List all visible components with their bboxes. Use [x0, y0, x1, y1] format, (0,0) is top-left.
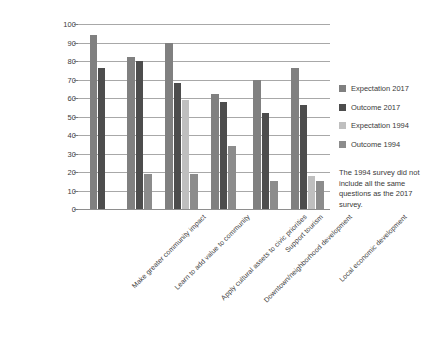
y-tick-mark-30 — [74, 154, 78, 155]
legend-item[interactable]: Outcome 1994 — [339, 140, 435, 149]
x-axis-labels: Make greater community impactLearn to ad… — [78, 209, 338, 329]
legend-swatch-icon — [339, 104, 346, 111]
legend-swatch-icon — [339, 122, 346, 129]
bar — [262, 113, 270, 209]
y-tick-mark-80 — [74, 61, 78, 62]
bar — [220, 102, 228, 209]
bar — [174, 83, 182, 209]
legend-item[interactable]: Outcome 2017 — [339, 103, 435, 112]
bar — [165, 43, 173, 210]
bar — [211, 94, 219, 209]
x-axis-label: Make greater community impact — [131, 213, 207, 289]
bar-chart: 0102030405060708090100 Make greater comm… — [0, 0, 436, 337]
legend-item[interactable]: Expectation 2017 — [339, 84, 435, 93]
bar-group — [120, 24, 162, 209]
bar-group — [204, 24, 246, 209]
bar — [144, 174, 152, 209]
bar — [98, 68, 106, 209]
legend: Expectation 2017Outcome 2017Expectation … — [339, 84, 435, 158]
chart-note: The 1994 survey did not include all the … — [339, 168, 431, 210]
bar-group — [162, 24, 204, 209]
legend-item-label: Outcome 1994 — [351, 140, 400, 149]
bar — [136, 61, 144, 209]
y-tick-mark-0 — [74, 209, 78, 210]
plot-area — [78, 24, 330, 209]
bar — [253, 80, 261, 210]
legend-swatch-icon — [339, 141, 346, 148]
y-axis-labels: 0102030405060708090100 — [56, 24, 76, 209]
bar-group — [246, 24, 288, 209]
bar — [308, 176, 316, 209]
bar — [127, 57, 135, 209]
y-tick-mark-100 — [74, 24, 78, 25]
bar — [228, 146, 236, 209]
y-tick-mark-50 — [74, 117, 78, 118]
legend-item-label: Outcome 2017 — [351, 103, 400, 112]
y-tick-mark-90 — [74, 43, 78, 44]
bar — [291, 68, 299, 209]
bar-group — [288, 24, 330, 209]
legend-item-label: Expectation 2017 — [351, 84, 409, 93]
y-tick-mark-10 — [74, 191, 78, 192]
legend-item[interactable]: Expectation 1994 — [339, 121, 435, 130]
bar-groups — [78, 24, 330, 209]
bar — [300, 105, 308, 209]
bar — [182, 100, 190, 209]
y-tick-mark-20 — [74, 172, 78, 173]
y-tick-mark-70 — [74, 80, 78, 81]
bar — [190, 174, 198, 209]
x-axis-label: Local economic development — [338, 213, 408, 283]
bar-group — [78, 24, 120, 209]
legend-swatch-icon — [339, 85, 346, 92]
y-tick-mark-60 — [74, 98, 78, 99]
bar — [90, 35, 98, 209]
bar — [316, 181, 324, 209]
bar — [270, 181, 278, 209]
y-tick-mark-40 — [74, 135, 78, 136]
legend-item-label: Expectation 1994 — [351, 121, 409, 130]
